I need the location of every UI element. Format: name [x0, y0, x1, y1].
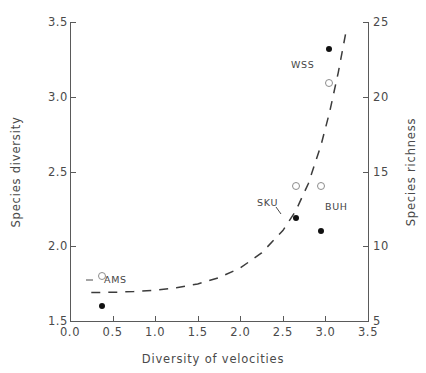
y-left-tick-1 — [71, 246, 76, 247]
data-point-sku-richness — [292, 182, 300, 190]
data-point-wss-richness — [325, 79, 333, 87]
y-right-tick-label-0: 5 — [373, 314, 381, 328]
y-right-tick-0 — [363, 321, 368, 322]
x-tick-4 — [240, 316, 241, 321]
x-tick-3 — [198, 316, 199, 321]
y-right-tick-label-4: 25 — [373, 15, 389, 29]
site-label-sku: SKU — [257, 197, 278, 208]
x-tick-6 — [325, 316, 326, 321]
x-tick-label-3: 1.5 — [188, 325, 208, 339]
x-tick-2 — [155, 316, 156, 321]
y-axis-right-title: Species richness — [404, 118, 418, 227]
x-tick-label-4: 2.0 — [230, 325, 250, 339]
y-left-tick-0 — [71, 321, 76, 322]
y-axis-left-title: Species diversity — [9, 116, 23, 227]
x-axis-line — [70, 321, 369, 322]
x-tick-label-1: 0.5 — [103, 325, 123, 339]
y-right-tick-label-1: 10 — [373, 239, 389, 253]
site-label-ams: AMS — [104, 274, 127, 285]
x-tick-label-2: 1.0 — [145, 325, 165, 339]
data-point-ams-diversity — [99, 303, 105, 309]
y-right-tick-4 — [363, 22, 368, 23]
y-right-tick-2 — [363, 172, 368, 173]
x-tick-label-6: 3.0 — [315, 325, 335, 339]
y-left-tick-label-1: 2.0 — [48, 239, 68, 253]
site-label-wss: WSS — [291, 59, 315, 70]
y-right-tick-3 — [363, 97, 368, 98]
x-tick-7 — [368, 316, 369, 321]
y-left-tick-3 — [71, 97, 76, 98]
sku-leader-line — [276, 207, 281, 214]
y-left-tick-label-2: 2.5 — [48, 165, 68, 179]
y-left-tick-label-4: 3.5 — [48, 15, 68, 29]
data-point-buh-diversity — [318, 228, 324, 234]
site-label-buh: BUH — [325, 201, 348, 212]
y-left-tick-label-3: 3.0 — [48, 90, 68, 104]
y-left-tick-4 — [71, 22, 76, 23]
y-left-tick-label-0: 1.5 — [48, 314, 68, 328]
y-axis-right-line — [368, 22, 369, 322]
y-right-tick-1 — [363, 246, 368, 247]
x-tick-1 — [113, 316, 114, 321]
y-left-tick-2 — [71, 172, 76, 173]
data-point-wss-diversity — [326, 46, 332, 52]
data-point-sku-diversity — [293, 215, 299, 221]
chart-figure: 0.00.51.01.52.02.53.03.51.52.02.53.03.55… — [0, 0, 426, 373]
y-right-tick-label-2: 15 — [373, 165, 389, 179]
data-point-buh-richness — [317, 182, 325, 190]
y-right-tick-label-3: 20 — [373, 90, 389, 104]
x-tick-5 — [283, 316, 284, 321]
x-axis-title: Diversity of velocities — [142, 352, 284, 366]
x-tick-label-5: 2.5 — [273, 325, 293, 339]
